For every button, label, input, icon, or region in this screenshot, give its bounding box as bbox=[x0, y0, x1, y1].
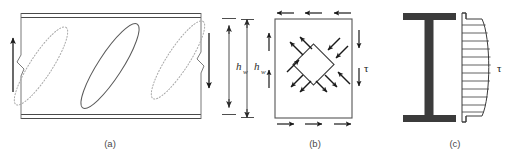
figure-background bbox=[0, 0, 519, 157]
panel-c-caption: (c) bbox=[449, 138, 460, 149]
panel-c-tau-label: τ bbox=[497, 62, 502, 74]
i-section-web bbox=[425, 20, 434, 115]
figure-container: h w (a) h w bbox=[0, 0, 519, 157]
panel-a-caption: (a) bbox=[104, 138, 116, 149]
panel-b-height-subscript: w bbox=[261, 68, 266, 76]
i-section-bottom-flange bbox=[403, 115, 456, 122]
shear-behaviour-figure: h w (a) h w bbox=[0, 0, 519, 157]
panel-a-height-label: h bbox=[236, 60, 242, 72]
panel-b-caption: (b) bbox=[309, 138, 321, 149]
panel-b-height-label: h bbox=[254, 60, 260, 72]
panel-b-tau-label: τ bbox=[364, 62, 369, 74]
i-section-top-flange bbox=[403, 13, 456, 20]
